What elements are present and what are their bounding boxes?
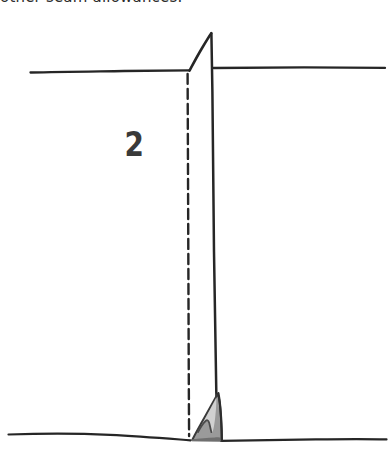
figure-root: other seam allowances. 2 bbox=[0, 0, 391, 462]
ink-strokes bbox=[9, 33, 387, 441]
upper-left-fabric-edge bbox=[31, 70, 190, 72]
fold-line-dashed bbox=[188, 74, 190, 436]
upper-right-fabric-edge bbox=[214, 67, 386, 68]
dart-diagram bbox=[0, 0, 391, 462]
bottom-left-fabric-edge bbox=[9, 434, 191, 441]
shaded-seam-allowance bbox=[192, 393, 222, 441]
bottom-right-fabric-edge bbox=[221, 439, 387, 441]
fold-apex-left-slope bbox=[190, 33, 212, 70]
stitching-line bbox=[211, 33, 218, 419]
dart-number-label: 2 bbox=[122, 124, 147, 164]
